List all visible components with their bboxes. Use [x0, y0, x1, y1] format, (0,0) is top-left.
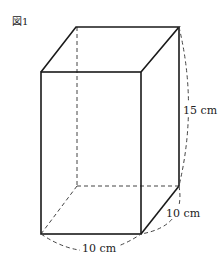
hidden-edges [41, 27, 179, 234]
hidden-edge-left-bottom [41, 186, 77, 234]
width-label: 10 cm [82, 242, 117, 255]
height-label: 15 cm [183, 104, 218, 117]
figure-label: 図1 [12, 13, 28, 28]
visible-edges [41, 27, 179, 234]
depth-label: 10 cm [166, 207, 201, 220]
diagram-canvas: 図1 1 [0, 0, 224, 259]
top-face-edges [41, 27, 179, 72]
prism-diagram: 15 cm 10 cm 10 cm [0, 0, 224, 259]
front-face [41, 72, 141, 234]
